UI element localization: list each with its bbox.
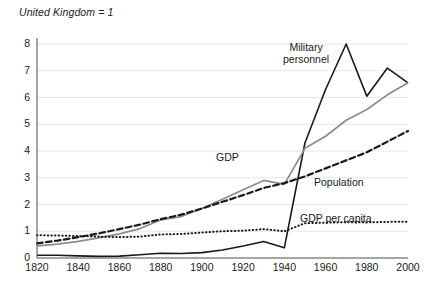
x-tick-label: 1880 — [141, 262, 181, 273]
x-tick-label: 1900 — [182, 262, 222, 273]
x-tick-label: 2000 — [388, 262, 424, 273]
y-tick-label: 6 — [14, 92, 30, 103]
series-label-gdp: GDP — [216, 152, 239, 164]
gridlines — [37, 44, 408, 231]
y-tick-label: 1 — [14, 225, 30, 236]
y-tick-label: 2 — [14, 199, 30, 210]
x-tick-label: 1820 — [17, 262, 57, 273]
x-tick-label: 1960 — [306, 262, 346, 273]
x-tick-label: 1860 — [99, 262, 139, 273]
series-label-military-personnel: Military personnel — [283, 42, 329, 65]
y-tick-label: 8 — [14, 38, 30, 49]
series-label-military-line1: Military — [283, 42, 329, 54]
x-tick-label: 1980 — [347, 262, 387, 273]
x-tick-label: 1940 — [264, 262, 304, 273]
y-tick-label: 7 — [14, 65, 30, 76]
y-tick-label: 5 — [14, 118, 30, 129]
y-tick-label: 3 — [14, 172, 30, 183]
x-tick-label: 1920 — [223, 262, 263, 273]
series-label-military-line2: personnel — [283, 54, 329, 66]
series-label-population: Population — [314, 177, 364, 189]
y-tick-label: 4 — [14, 145, 30, 156]
x-tick-label: 1840 — [58, 262, 98, 273]
series-label-gdp-per-capita: GDP per capita — [300, 213, 372, 225]
